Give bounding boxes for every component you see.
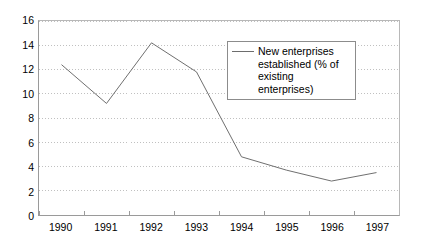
- x-axis-tick-label: 1997: [366, 222, 389, 233]
- line-chart: 0246810121416 19901991199219931994199519…: [0, 0, 428, 251]
- y-axis-tick-label: 8: [4, 113, 34, 124]
- x-axis-tick-label: 1990: [49, 222, 72, 233]
- y-axis-tick-label: 16: [4, 15, 34, 26]
- x-axis-tick-label: 1994: [230, 222, 253, 233]
- x-axis-tick-label: 1993: [185, 222, 208, 233]
- y-axis-tick-label: 0: [4, 211, 34, 222]
- x-axis-tick-label: 1992: [139, 222, 162, 233]
- x-axis-tick-label: 1995: [275, 222, 298, 233]
- legend-line-swatch: [232, 45, 254, 57]
- y-axis-tick-label: 4: [4, 162, 34, 173]
- y-axis-tick-label: 12: [4, 64, 34, 75]
- y-axis-tick-label: 6: [4, 137, 34, 148]
- legend-label: New enterprises established (% of existi…: [258, 45, 351, 95]
- y-axis-tick-label: 14: [4, 39, 34, 50]
- y-axis-tick-label: 2: [4, 186, 34, 197]
- legend: New enterprises established (% of existi…: [227, 41, 356, 100]
- x-axis-tick-label: 1991: [94, 222, 117, 233]
- x-axis-tick-label: 1996: [320, 222, 343, 233]
- x-axis-tick-marks: [39, 211, 399, 215]
- y-axis-tick-label: 10: [4, 88, 34, 99]
